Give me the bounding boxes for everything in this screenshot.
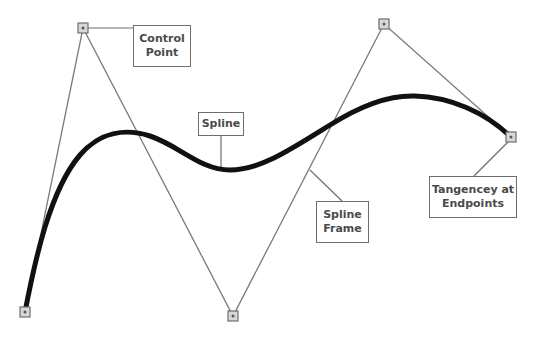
control-point-label: Control Point	[133, 25, 191, 67]
tangency-label-line2: Endpoints	[442, 197, 504, 211]
tangency-leader	[474, 141, 509, 176]
spline-frame	[25, 24, 511, 316]
spline-diagram-canvas	[0, 0, 536, 343]
spline-frame-label-line2: Frame	[323, 222, 362, 236]
control-point-icon[interactable]	[228, 311, 238, 321]
spline-frame-label-line1: Spline	[323, 208, 362, 222]
spline-label: Spline	[198, 112, 244, 136]
tangency-label: Tangencey at Endpoints	[429, 176, 517, 218]
control-point-icon[interactable]	[20, 307, 30, 317]
spline-frame-label: Spline Frame	[316, 201, 369, 243]
control-point-label-line2: Point	[146, 46, 178, 60]
control-point-icon[interactable]	[506, 132, 516, 142]
control-point-label-line1: Control	[139, 32, 184, 46]
tangency-label-line1: Tangencey at	[432, 183, 514, 197]
control-point-icon[interactable]	[78, 23, 88, 33]
control-point-icon[interactable]	[379, 19, 389, 29]
spline-frame-leader	[310, 170, 342, 201]
control-point-markers	[20, 19, 516, 321]
spline-label-line1: Spline	[202, 117, 241, 131]
